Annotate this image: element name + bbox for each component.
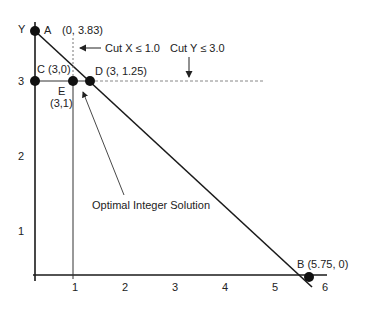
y-tick-1: 1	[18, 225, 24, 237]
cut-y-label: Cut Y ≤ 3.0	[170, 42, 225, 54]
diagram-canvas: Y 3 2 1 1 2 3 4 5 6 A (0, 3.83) C (3,0) …	[0, 0, 366, 313]
x-tick-5: 5	[272, 281, 278, 293]
y-tick-3: 3	[18, 75, 24, 87]
point-d	[85, 76, 95, 86]
point-e-coords: (3,1)	[50, 97, 73, 109]
point-a-coords: (0, 3.83)	[62, 24, 103, 36]
x-tick-6: 6	[322, 281, 328, 293]
y-axis-label: Y	[18, 23, 26, 35]
x-tick-3: 3	[172, 281, 178, 293]
optimal-solution-label: Optimal Integer Solution	[92, 199, 210, 211]
point-a	[30, 26, 40, 36]
point-b	[304, 272, 314, 282]
y-tick-2: 2	[18, 150, 24, 162]
point-a-name: A	[44, 24, 52, 36]
point-d-label: D (3, 1.25)	[95, 65, 147, 77]
point-e	[68, 76, 78, 86]
point-c	[30, 76, 40, 86]
point-e-name: E	[58, 85, 65, 97]
constraint-line	[35, 31, 312, 287]
x-tick-1: 1	[72, 281, 78, 293]
x-tick-2: 2	[122, 281, 128, 293]
x-tick-4: 4	[222, 281, 228, 293]
point-b-label: B (5.75, 0)	[297, 258, 348, 270]
point-c-label: C (3,0)	[37, 63, 71, 75]
cut-x-label: Cut X ≤ 1.0	[105, 42, 160, 54]
